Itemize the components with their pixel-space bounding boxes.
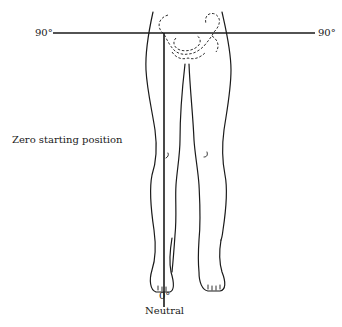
right-90-degree-label: 90° [318,28,336,38]
zero-starting-position-caption: Zero starting position [12,135,122,145]
left-90-degree-label: 90° [35,28,53,38]
body-outline [146,12,231,292]
zero-degree-label: 0° [159,291,170,301]
neutral-caption: Neutral [145,306,184,316]
right-leg-inner [189,64,225,291]
right-leg-outer [221,12,231,240]
anatomy-diagram [0,0,342,327]
left-leg-inner [172,64,185,272]
pelvis-outline [159,13,219,58]
left-leg-outer [146,12,174,292]
